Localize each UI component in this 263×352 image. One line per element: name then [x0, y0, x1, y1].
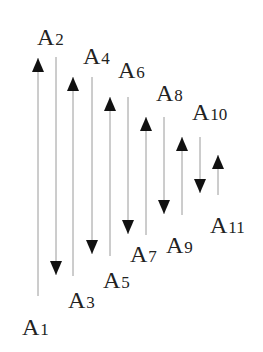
- arrowhead-up-icon: [32, 58, 44, 72]
- arrow-7-up: [140, 117, 152, 235]
- arrow-11-up: [212, 155, 224, 195]
- arrow-5-up: [104, 97, 116, 256]
- arrow-9-up: [176, 137, 188, 215]
- arrowhead-up-icon: [212, 155, 224, 169]
- label-a5: A5: [103, 267, 130, 293]
- label-a11: A11: [210, 212, 245, 238]
- arrow-diagram: A1A2A3A4A5A6A7A8A9A10A11: [0, 0, 263, 352]
- label-a7: A7: [130, 241, 157, 267]
- arrow-6-down: [122, 97, 134, 234]
- arrow-4-down: [86, 77, 98, 254]
- label-a1: A1: [22, 314, 49, 340]
- arrow-10-down: [194, 137, 206, 193]
- arrowhead-up-icon: [140, 117, 152, 131]
- arrow-8-down: [158, 117, 170, 214]
- arrowhead-up-icon: [104, 97, 116, 111]
- label-a9: A9: [166, 232, 193, 258]
- label-a10: A10: [192, 99, 227, 125]
- label-a2: A2: [37, 24, 64, 50]
- label-a8: A8: [156, 80, 183, 106]
- arrow-3-up: [67, 77, 79, 276]
- label-a3: A3: [68, 287, 95, 313]
- arrowhead-down-icon: [86, 240, 98, 254]
- arrowhead-down-icon: [194, 179, 206, 193]
- arrowhead-down-icon: [122, 220, 134, 234]
- label-a6: A6: [118, 57, 145, 83]
- arrowhead-up-icon: [67, 77, 79, 91]
- arrow-2-down: [50, 57, 62, 275]
- arrow-1-up: [32, 58, 44, 296]
- arrowhead-down-icon: [50, 261, 62, 275]
- label-a4: A4: [83, 43, 110, 69]
- arrowhead-up-icon: [176, 137, 188, 151]
- arrowhead-down-icon: [158, 200, 170, 214]
